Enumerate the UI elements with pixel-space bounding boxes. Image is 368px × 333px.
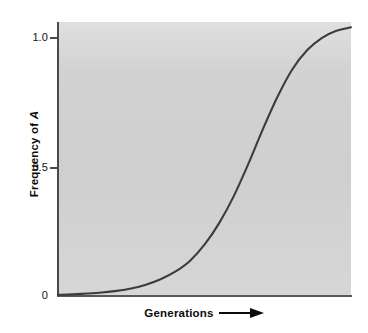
figure-container: 1.0 0.5 0 Frequency of A Generations bbox=[0, 0, 368, 333]
curve-path bbox=[58, 27, 351, 295]
y-axis-title: Frequency of A bbox=[28, 74, 40, 234]
y-axis-title-symbol: A bbox=[28, 111, 40, 120]
y-tick-label-1.0: 1.0 bbox=[16, 31, 48, 43]
x-axis-title-group: Generations bbox=[58, 307, 351, 319]
y-axis-title-text: Frequency of bbox=[28, 119, 40, 197]
data-curve-logistic bbox=[57, 22, 352, 298]
right-arrow-icon bbox=[219, 307, 265, 319]
y-tick-mark-1.0 bbox=[50, 37, 57, 39]
y-tick-mark-0.5 bbox=[50, 167, 57, 169]
y-tick-label-0: 0 bbox=[16, 289, 48, 301]
x-axis-title: Generations bbox=[144, 307, 213, 319]
